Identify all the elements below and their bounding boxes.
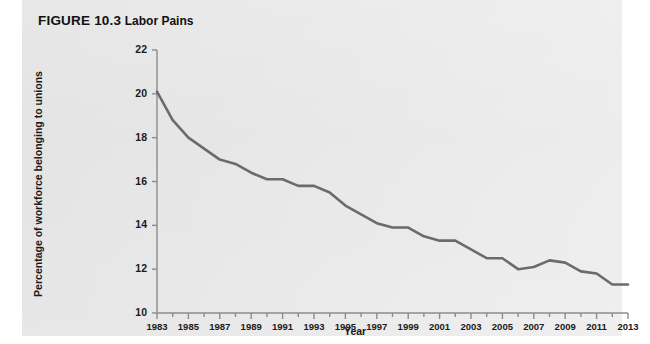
y-tick-label: 18	[121, 131, 147, 143]
x-tick-label: 2013	[608, 321, 648, 332]
y-tick-label: 20	[121, 87, 147, 99]
figure-root: FIGURE 10.3 Labor Pains 10121416182022 1…	[0, 0, 650, 344]
tick-marks	[152, 50, 628, 319]
y-tick-label: 16	[121, 175, 147, 187]
axis-group	[157, 50, 628, 313]
x-axis-title: Year	[344, 325, 366, 337]
chart-area: 10121416182022 1983198519871989199119931…	[0, 0, 650, 344]
y-tick-label: 22	[121, 43, 147, 55]
y-axis-title: Percentage of workforce belonging to uni…	[32, 54, 44, 314]
y-tick-label: 14	[121, 218, 147, 230]
y-tick-label: 12	[121, 262, 147, 274]
y-tick-label: 10	[121, 306, 147, 318]
chart-plot	[0, 0, 650, 344]
data-series-line	[157, 92, 628, 285]
